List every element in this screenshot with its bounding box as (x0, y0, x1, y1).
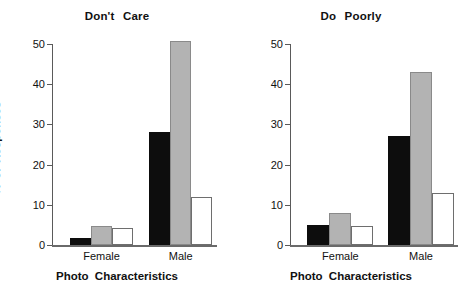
plot-area-left: 01020304050FemaleMale (52, 44, 217, 245)
y-tick-label: 20 (271, 159, 283, 171)
y-tick-mark (285, 165, 290, 166)
chart-panel-dont-care: Don't Care % of Responses 01020304050Fem… (0, 0, 234, 296)
bar-female-series-2 (329, 213, 351, 245)
y-tick-label: 40 (271, 78, 283, 90)
y-axis-line-right (290, 44, 291, 245)
x-axis-line-right (290, 245, 458, 247)
y-tick-mark (285, 84, 290, 85)
x-tick-label-male: Male (409, 250, 433, 262)
y-axis-title: % of Responses (0, 102, 2, 195)
bar-male-series-3 (432, 193, 454, 245)
bar-male-series-2 (170, 41, 191, 245)
chart-title-left: Don't Care (0, 10, 234, 22)
y-axis-line-left (52, 44, 53, 245)
bar-female-series-1 (70, 238, 91, 245)
x-axis-title-right: Photo Characteristics (234, 270, 468, 282)
y-tick-mark (47, 205, 52, 206)
y-tick-label: 10 (271, 199, 283, 211)
y-tick-mark (285, 245, 290, 246)
chart-title-right: Do Poorly (234, 10, 468, 22)
y-tick-label: 10 (33, 199, 45, 211)
y-tick-mark (47, 84, 52, 85)
y-tick-mark (285, 205, 290, 206)
y-tick-mark (285, 124, 290, 125)
y-tick-mark (47, 245, 52, 246)
plot-area-right: 01020304050FemaleMale (290, 44, 458, 245)
bar-male-series-1 (149, 132, 170, 245)
y-tick-mark (47, 44, 52, 45)
y-tick-label: 20 (33, 159, 45, 171)
y-tick-mark (47, 124, 52, 125)
figure-canvas: Don't Care % of Responses 01020304050Fem… (0, 0, 468, 296)
x-tick-label-male: Male (169, 250, 193, 262)
y-tick-label: 30 (33, 118, 45, 130)
y-tick-label: 40 (33, 78, 45, 90)
x-axis-line-left (52, 245, 217, 247)
bar-female-series-2 (91, 226, 112, 245)
y-tick-label: 30 (271, 118, 283, 130)
y-tick-label: 50 (271, 38, 283, 50)
bar-female-series-3 (112, 228, 133, 245)
bar-male-series-2 (410, 72, 432, 245)
x-tick-label-female: Female (322, 250, 359, 262)
chart-panel-do-poorly: Do Poorly 01020304050FemaleMale Photo Ch… (234, 0, 468, 296)
y-tick-mark (285, 44, 290, 45)
bar-female-series-1 (307, 225, 329, 245)
bar-male-series-3 (191, 197, 212, 245)
x-tick-label-female: Female (83, 250, 120, 262)
y-tick-label: 0 (277, 239, 283, 251)
y-tick-mark (47, 165, 52, 166)
y-tick-label: 0 (39, 239, 45, 251)
y-tick-label: 50 (33, 38, 45, 50)
bar-female-series-3 (351, 226, 373, 245)
bar-male-series-1 (388, 136, 410, 245)
x-axis-title-left: Photo Characteristics (0, 270, 234, 282)
